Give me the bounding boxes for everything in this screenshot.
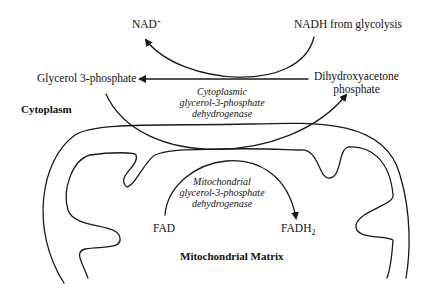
dhap-line1: Dihydroxyacetone <box>314 70 399 83</box>
mitochondrial-enzyme-label: Mitochondrial glycerol-3-phosphate dehyd… <box>172 176 272 209</box>
glycerol-phosphate-shuttle-diagram: NAD+ NADH from glycolysis Glycerol 3-pho… <box>0 0 438 297</box>
mito-enzyme-line3: dehydrogenase <box>172 198 272 209</box>
fadh2-label: FADH2 <box>281 222 315 234</box>
glycerol-3-phosphate-label: Glycerol 3-phosphate <box>37 72 136 84</box>
cytoplasm-label: Cytoplasm <box>21 103 72 115</box>
nad-superscript: + <box>157 18 161 26</box>
nad-plus-label: NAD+ <box>132 18 161 30</box>
cyto-enzyme-line1: Cytoplasmic <box>172 86 272 97</box>
nad-text: NAD <box>132 18 157 30</box>
dhap-label: Dihydroxyacetone phosphate <box>314 70 399 96</box>
fad-label: FAD <box>153 222 175 234</box>
mito-enzyme-line1: Mitochondrial <box>172 176 272 187</box>
mitochondrial-matrix-label: Mitochondrial Matrix <box>180 250 284 262</box>
cytoplasmic-enzyme-label: Cytoplasmic glycerol-3-phosphate dehydro… <box>172 86 272 119</box>
fadh-subscript: 2 <box>311 228 315 237</box>
cyto-enzyme-line3: dehydrogenase <box>172 108 272 119</box>
dhap-line2: phosphate <box>314 83 399 96</box>
cyto-enzyme-line2: glycerol-3-phosphate <box>172 97 272 108</box>
nadh-label: NADH from glycolysis <box>294 18 402 30</box>
mito-enzyme-line2: glycerol-3-phosphate <box>172 187 272 198</box>
nadh-to-nad-arrow <box>146 37 314 77</box>
fadh-text: FADH <box>281 222 311 234</box>
